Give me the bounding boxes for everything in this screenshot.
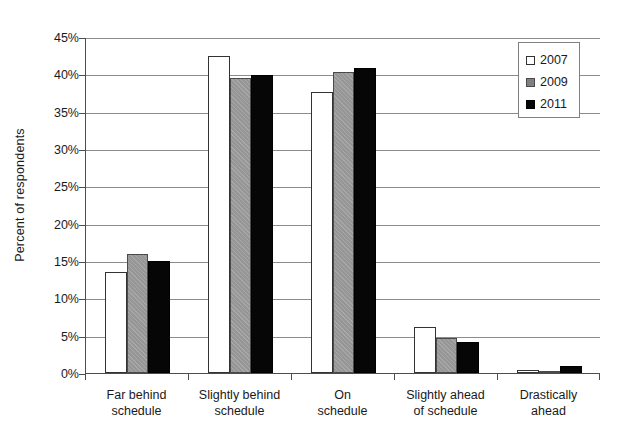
legend-item-2007: 2007: [526, 49, 579, 71]
x-axis-category-label: Far behindschedule: [85, 388, 188, 419]
x-axis-category-line: schedule: [291, 404, 394, 420]
x-axis-tick-mark: [394, 374, 395, 380]
x-axis-category-line: On: [334, 388, 351, 402]
bar-2011-2: [251, 75, 273, 373]
bar-2007-4: [414, 327, 436, 373]
x-axis-tick-mark: [188, 374, 189, 380]
legend-item-2011: 2011: [526, 93, 579, 115]
legend-swatch-2007: [526, 56, 535, 65]
bar-2007-1: [105, 272, 127, 373]
bar-2009-4: [436, 338, 458, 373]
bar-2007-2: [208, 56, 230, 373]
x-axis-tick-marks: [85, 374, 600, 382]
x-axis-category-line: Drastically: [520, 388, 578, 402]
legend: 200720092011: [518, 42, 580, 118]
legend-label: 2009: [540, 76, 568, 89]
bar-2007-5: [517, 370, 539, 373]
x-axis-category-line: Slightly ahead: [406, 388, 485, 402]
x-axis-category-label: Onschedule: [291, 388, 394, 419]
x-axis-category-label: Slightly aheadof schedule: [394, 388, 497, 419]
bar-2011-1: [148, 261, 170, 373]
bar-2009-5: [539, 371, 561, 373]
bar-chart: Percent of respondents 0%5%10%15%20%25%3…: [0, 0, 633, 442]
x-axis-category-line: schedule: [85, 404, 188, 420]
x-axis-category-line: of schedule: [394, 404, 497, 420]
legend-label: 2011: [540, 98, 567, 111]
x-axis-category-line: Slightly behind: [199, 388, 280, 402]
legend-swatch-2011: [526, 100, 535, 109]
bar-group: [395, 38, 498, 373]
bar-2007-3: [311, 92, 333, 373]
bar-2011-5: [560, 366, 582, 373]
bar-group: [86, 38, 189, 373]
x-axis-tick-mark: [497, 374, 498, 380]
x-axis-category-line: Far behind: [107, 388, 167, 402]
legend-swatch-2009: [526, 78, 535, 87]
x-axis-tick-mark: [599, 374, 600, 380]
x-axis-category-line: ahead: [497, 404, 600, 420]
x-axis-category-label: Slightly behindschedule: [188, 388, 291, 419]
x-axis-category-line: schedule: [188, 404, 291, 420]
bar-2011-4: [457, 342, 479, 373]
bar-2011-3: [354, 68, 376, 373]
bar-group: [189, 38, 292, 373]
y-axis-tick-marks: [0, 38, 90, 374]
bar-2009-3: [333, 72, 355, 373]
x-axis-category-labels: Far behindscheduleSlightly behindschedul…: [85, 388, 600, 438]
bar-2009-1: [127, 254, 149, 373]
bar-group: [292, 38, 395, 373]
x-axis-tick-mark: [291, 374, 292, 380]
x-axis-category-label: Drasticallyahead: [497, 388, 600, 419]
legend-item-2009: 2009: [526, 71, 579, 93]
bar-2009-2: [230, 78, 252, 373]
legend-label: 2007: [540, 54, 568, 67]
x-axis-tick-mark: [85, 374, 86, 380]
